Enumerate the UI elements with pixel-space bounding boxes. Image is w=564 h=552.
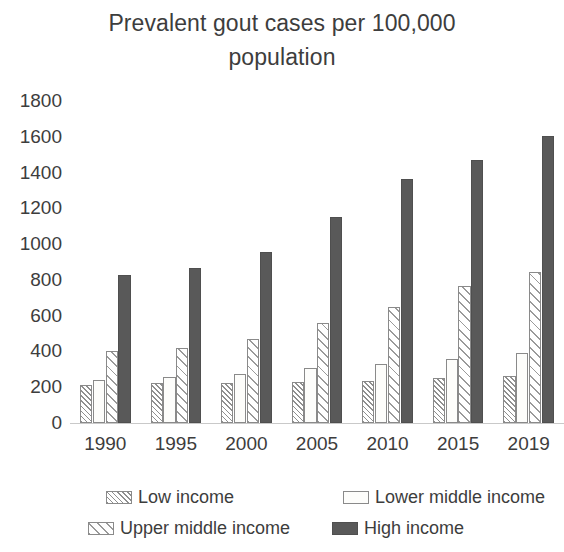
x-axis-tick-label: 1995 [141, 432, 212, 456]
bar [529, 272, 541, 423]
y-axis-tick-label: 1200 [6, 198, 62, 217]
legend-item-high-income[interactable]: High income [332, 518, 464, 538]
bar-groups-container [70, 101, 564, 423]
bar [542, 136, 554, 423]
bar-group [282, 101, 353, 423]
legend-label-high-income: High income [364, 518, 464, 538]
bar-group [70, 101, 141, 423]
x-axis-tick-label: 2000 [211, 432, 282, 456]
y-axis-tick-label: 600 [6, 306, 62, 325]
bar [388, 307, 400, 423]
y-axis-tick-label: 800 [6, 270, 62, 289]
bar [163, 377, 175, 424]
chart-legend: Low income Lower middle income Upper mid… [82, 483, 552, 545]
bar-group [493, 101, 564, 423]
legend-swatch-low-income-icon [106, 491, 132, 504]
bar [247, 339, 259, 423]
x-axis-tick-label: 2005 [282, 432, 353, 456]
bar [317, 323, 329, 423]
x-axis-tick-label: 2015 [423, 432, 494, 456]
bar [375, 364, 387, 423]
y-axis: 180016001400120010008006004002000 [2, 0, 62, 552]
x-axis-tick-label: 1990 [70, 432, 141, 456]
legend-swatch-high-income-icon [332, 522, 358, 535]
x-axis-tick-label: 2019 [493, 432, 564, 456]
legend-label-low-income: Low income [138, 487, 234, 507]
bar [80, 385, 92, 423]
y-axis-tick-label: 1800 [6, 91, 62, 110]
legend-row: Low income Lower middle income [82, 483, 552, 511]
y-axis-tick-label: 0 [6, 413, 62, 432]
bar-group [141, 101, 212, 423]
y-axis-tick-label: 400 [6, 341, 62, 360]
y-axis-tick-label: 1000 [6, 234, 62, 253]
bar [176, 348, 188, 423]
bar-group [423, 101, 494, 423]
x-axis: 1990199520002005201020152019 [70, 432, 564, 462]
legend-label-upper-middle-income: Upper middle income [120, 518, 290, 538]
bar [503, 376, 515, 423]
bar-group [211, 101, 282, 423]
bar [433, 378, 445, 423]
y-axis-tick-label: 200 [6, 377, 62, 396]
legend-row: Upper middle income High income [82, 514, 552, 542]
bar [221, 383, 233, 423]
y-axis-tick-label: 1400 [6, 163, 62, 182]
bar [304, 368, 316, 423]
legend-swatch-upper-middle-income-icon [88, 522, 114, 535]
bar [93, 380, 105, 423]
bar [446, 359, 458, 423]
bar [189, 268, 201, 423]
bar [234, 374, 246, 423]
bar [516, 353, 528, 423]
bar [118, 275, 130, 423]
bar [471, 160, 483, 423]
x-axis-line [70, 423, 564, 424]
bar [362, 381, 374, 423]
bar [330, 217, 342, 423]
chart-plot-area: 180016001400120010008006004002000 199019… [0, 0, 564, 552]
legend-swatch-lower-middle-income-icon [343, 491, 369, 504]
legend-item-upper-middle-income[interactable]: Upper middle income [88, 518, 290, 538]
legend-item-lower-middle-income[interactable]: Lower middle income [343, 487, 545, 507]
bar [151, 383, 163, 423]
bar [401, 179, 413, 423]
x-axis-tick-label: 2010 [352, 432, 423, 456]
legend-label-lower-middle-income: Lower middle income [375, 487, 545, 507]
bar [106, 351, 118, 423]
bar-group [352, 101, 423, 423]
bar [458, 286, 470, 423]
bar [292, 382, 304, 423]
legend-item-low-income[interactable]: Low income [106, 487, 234, 507]
bar [260, 252, 272, 423]
y-axis-tick-label: 1600 [6, 127, 62, 146]
